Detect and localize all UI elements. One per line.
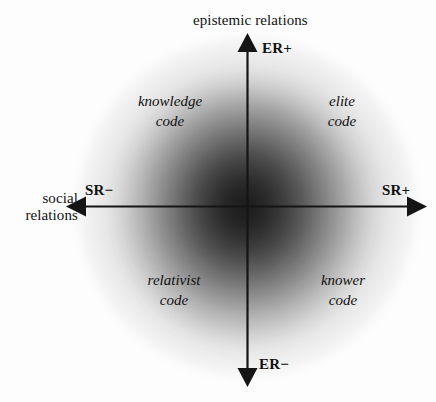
quadrant-label-elite-code: elite code [300,92,384,131]
quadrant-label-knower-code-line2: code [296,291,390,311]
sr-minus-pole-label: SR− [85,182,113,199]
quadrant-label-knowledge-code-line2: code [118,112,222,132]
quadrant-label-knower-code-line1: knower [296,271,390,291]
quadrant-label-elite-code-line1: elite [300,92,384,112]
quadrant-label-relativist-code-line2: code [122,291,226,311]
quadrant-label-elite-code-line2: code [300,112,384,132]
social-relations-axis-label-line1: social [8,190,78,207]
quadrant-label-relativist-code: relativist code [122,271,226,310]
quadrant-label-knower-code: knower code [296,271,390,310]
vertical-axis-up-arrowhead [238,33,258,52]
social-relations-axis-label-line2: relations [8,207,78,224]
quadrant-label-knowledge-code: knowledge code [118,92,222,131]
sr-plus-pole-label: SR+ [382,182,410,199]
quadrant-label-knowledge-code-line1: knowledge [118,92,222,112]
vertical-axis-down-arrowhead [238,368,258,387]
er-plus-pole-label: ER+ [262,40,292,57]
horizontal-axis-right-arrowhead [407,197,427,217]
quadrant-label-relativist-code-line1: relativist [122,271,226,291]
er-minus-pole-label: ER− [259,356,289,373]
epistemic-relations-axis-label: epistemic relations [193,12,308,29]
social-relations-axis-label: social relations [8,190,78,224]
specialization-plane-diagram: epistemic relations social relations ER+… [0,0,436,402]
density-cloud [77,37,417,377]
